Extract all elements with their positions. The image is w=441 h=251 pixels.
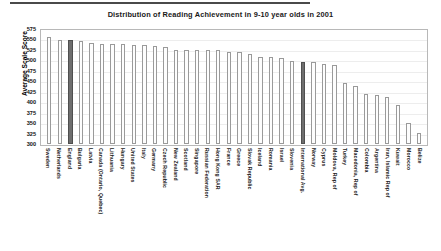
bar[interactable] <box>79 41 83 144</box>
bar-slot <box>393 31 404 144</box>
bar[interactable] <box>142 45 146 144</box>
bar-slot <box>329 31 340 144</box>
bar-slot <box>287 31 298 144</box>
bar-slot <box>213 31 224 144</box>
bar[interactable] <box>174 50 178 144</box>
x-label-slot: Moldova, Rep of <box>329 147 340 247</box>
x-label-slot: Hungary <box>117 147 128 247</box>
bar-slot <box>55 31 66 144</box>
bar[interactable] <box>110 44 114 144</box>
bar[interactable] <box>279 58 283 144</box>
bar[interactable] <box>195 50 199 144</box>
top-divider-rule <box>10 2 310 4</box>
bar[interactable] <box>100 44 104 144</box>
bar-slot <box>171 31 182 144</box>
bar-slot <box>403 31 414 144</box>
x-tick-label: Latvia <box>88 148 94 164</box>
bar-slot <box>298 31 309 144</box>
bar[interactable] <box>248 54 252 144</box>
x-label-slot: Colombia <box>361 147 372 247</box>
x-tick-label: Moldova, Rep of <box>332 148 338 190</box>
x-tick-label: Morocco <box>406 148 412 170</box>
bar[interactable] <box>417 133 421 144</box>
bar-slot <box>414 31 425 144</box>
x-label-slot: United States <box>128 147 139 247</box>
x-tick-label: Slovak Republic <box>247 148 253 190</box>
bar-slot <box>150 31 161 144</box>
x-label-slot: France <box>223 147 234 247</box>
bar[interactable] <box>343 83 347 144</box>
y-tick-label: 450 <box>16 78 36 84</box>
bar[interactable] <box>47 37 51 144</box>
x-tick-label: Canada (Ontario, Quebec) <box>98 148 104 214</box>
bar[interactable] <box>227 52 231 144</box>
bar[interactable] <box>184 50 188 144</box>
x-label-slot: Slovak Republic <box>245 147 256 247</box>
bar-slot <box>234 31 245 144</box>
bar[interactable] <box>322 64 326 144</box>
bar[interactable] <box>396 105 400 144</box>
bar[interactable] <box>364 94 368 144</box>
x-tick-label: Bulgaria <box>77 148 83 170</box>
bar[interactable] <box>68 40 72 144</box>
bar-slot <box>382 31 393 144</box>
bar-slot <box>319 31 330 144</box>
bar[interactable] <box>385 97 389 144</box>
bar[interactable] <box>206 50 210 144</box>
y-tick-label: 475 <box>16 68 36 74</box>
x-tick-label: Lithuania <box>109 148 115 172</box>
x-tick-label: Iran, Islamic Rep of <box>385 148 391 198</box>
y-tick-label: 575 <box>16 26 36 32</box>
y-tick-label: 350 <box>16 120 36 126</box>
x-label-slot: England <box>64 147 75 247</box>
bar[interactable] <box>163 47 167 144</box>
bar[interactable] <box>258 57 262 144</box>
bar-series <box>42 31 426 144</box>
bar-slot <box>192 31 203 144</box>
bar-slot <box>97 31 108 144</box>
bar-slot <box>255 31 266 144</box>
bar[interactable] <box>132 45 136 144</box>
x-label-slot: Bulgaria <box>75 147 86 247</box>
bar-slot <box>245 31 256 144</box>
x-tick-label: Iceland <box>257 148 263 167</box>
x-tick-label: Kuwait <box>395 148 401 166</box>
x-label-slot: Turkey <box>340 147 351 247</box>
x-tick-label: Israel <box>279 148 285 162</box>
x-tick-label: Turkey <box>342 148 348 165</box>
x-tick-label: Russian Federation <box>204 148 210 198</box>
bar[interactable] <box>290 61 294 144</box>
bar[interactable] <box>301 62 305 144</box>
bar-slot <box>129 31 140 144</box>
bar[interactable] <box>269 57 273 144</box>
bar[interactable] <box>332 65 336 144</box>
bar[interactable] <box>216 50 220 144</box>
x-label-slot: Czech Republic <box>160 147 171 247</box>
bar[interactable] <box>406 123 410 144</box>
y-tick-label: 500 <box>16 57 36 63</box>
x-tick-label: Belize <box>417 148 423 164</box>
x-label-slot: International Avg. <box>298 147 309 247</box>
chart-title: Distribution of Reading Achievement in 9… <box>0 10 441 19</box>
bar[interactable] <box>153 46 157 144</box>
bar[interactable] <box>121 44 125 144</box>
x-label-slot: Cyprus <box>319 147 330 247</box>
bar[interactable] <box>311 62 315 144</box>
x-tick-label: Sweden <box>45 148 51 168</box>
bar-slot <box>350 31 361 144</box>
bar[interactable] <box>89 43 93 144</box>
y-tick-label: 525 <box>16 47 36 53</box>
x-tick-label: Greece <box>236 148 242 166</box>
x-tick-label: New Zealand <box>173 148 179 181</box>
bar[interactable] <box>237 52 241 144</box>
x-label-slot: Netherlands <box>54 147 65 247</box>
bar-slot <box>139 31 150 144</box>
x-label-slot: Argentina <box>372 147 383 247</box>
x-label-slot: Iran, Islamic Rep of <box>383 147 394 247</box>
bar[interactable] <box>58 40 62 144</box>
x-tick-label: Slovenia <box>289 148 295 170</box>
bar[interactable] <box>375 95 379 144</box>
y-tick-label: 325 <box>16 131 36 137</box>
bar[interactable] <box>353 86 357 144</box>
x-tick-label: Hungary <box>120 148 126 170</box>
